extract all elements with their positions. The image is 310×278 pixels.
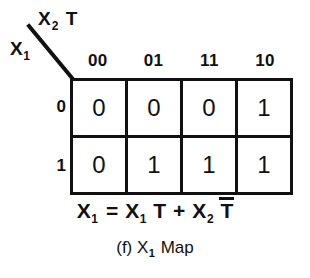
- kmap-cell-r0c0: 0: [73, 81, 125, 135]
- kmap-cell-r0c2: 0: [180, 81, 235, 135]
- kmap-row: 0 0 0 1: [73, 81, 290, 135]
- kmap-cell-r1c0: 0: [73, 138, 125, 192]
- equation-term1-subscript: 1: [140, 212, 147, 226]
- row-variable-name: X: [10, 38, 23, 59]
- kmap-row-headers: 0 1: [40, 78, 66, 195]
- equation-lhs-subscript: 1: [91, 212, 98, 226]
- kmap-cell-r1c2: 1: [180, 138, 235, 192]
- row-variable-label: X1: [10, 38, 31, 63]
- boolean-equation: X1=X1 T+X2 T: [0, 198, 310, 226]
- row-header-0: 0: [40, 78, 66, 137]
- caption-variable: X: [137, 238, 148, 257]
- equation-lhs: X1: [77, 199, 99, 222]
- equation-term2-var: X: [192, 199, 206, 222]
- equation-term1-literal: T: [153, 199, 166, 222]
- kmap-cell-r0c3: 1: [235, 81, 290, 135]
- kmap-column-headers: 00 01 11 10: [70, 48, 293, 74]
- equation-lhs-var: X: [77, 199, 91, 222]
- row-variable-subscript: 1: [23, 49, 30, 63]
- column-header-0: 00: [70, 48, 126, 74]
- kmap-cell-r1c1: 1: [125, 138, 180, 192]
- equation-term-1: X1 T: [125, 199, 166, 222]
- column-variable-extra: T: [66, 8, 78, 29]
- caption-suffix: Map: [161, 238, 194, 257]
- equation-term2-literal-complement: T: [220, 198, 233, 223]
- column-variable-subscript: 2: [52, 19, 59, 33]
- column-header-1: 01: [126, 48, 182, 74]
- kmap-grid: 0 0 0 1 0 1 1 1: [70, 78, 293, 195]
- equation-plus: +: [173, 199, 185, 222]
- column-variable-label: X2 T: [38, 8, 78, 33]
- equation-term1-var: X: [125, 199, 139, 222]
- caption-variable-subscript: 1: [149, 247, 155, 259]
- equation-term2-subscript: 2: [207, 212, 214, 226]
- kmap-cell-r1c3: 1: [235, 138, 290, 192]
- row-header-1: 1: [40, 137, 66, 196]
- kmap-corner-header: X2 T X1: [8, 4, 78, 82]
- equation-term-2: X2 T: [192, 199, 233, 222]
- caption-prefix: (f): [116, 238, 132, 257]
- kmap-figure: X2 T X1 00 01 11 10 0 1 0 0 0 1 0 1 1 1 …: [0, 0, 310, 278]
- column-header-3: 10: [237, 48, 293, 74]
- kmap-cell-r0c1: 0: [125, 81, 180, 135]
- column-variable-name: X: [38, 8, 51, 29]
- kmap-row: 0 1 1 1: [73, 135, 290, 192]
- column-header-2: 11: [182, 48, 238, 74]
- figure-caption: (f) X1 Map: [0, 238, 310, 259]
- equation-equals: =: [106, 199, 118, 222]
